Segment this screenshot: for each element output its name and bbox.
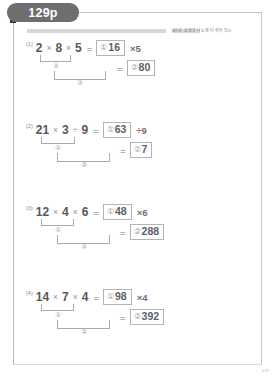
equals-sign-1: = (93, 292, 99, 303)
term-3: 6 (82, 205, 89, 219)
equals-sign-2: = (117, 63, 123, 74)
bracket-inner-label: ① (41, 311, 74, 319)
equation-line-secondary: = ② 7 (115, 143, 152, 157)
bracket-outer-label: ② (57, 243, 110, 251)
answer-value-step1: 98 (115, 291, 127, 302)
left-margin-rule (13, 20, 14, 365)
answer-box-step1[interactable]: ① 63 (103, 122, 132, 138)
bracket-inner-label: ① (41, 144, 75, 152)
term-3: 4 (82, 290, 89, 304)
bracket-inner (41, 219, 74, 226)
step-marker-2: ② (134, 311, 141, 322)
answer-box-step2[interactable]: ② 288 (130, 224, 165, 240)
operator-1: × (46, 43, 51, 53)
term-1: 21 (36, 123, 49, 137)
equals-sign-1: = (87, 43, 93, 54)
answer-box-step2[interactable]: ② 80 (127, 60, 156, 76)
header-band-left (27, 29, 166, 33)
step-marker-2: ② (131, 62, 138, 73)
bracket-outer-label: ② (57, 161, 110, 169)
problem-number: (4) (26, 290, 33, 296)
operator-1: × (53, 292, 58, 302)
remaining-operand-1: ×4 (137, 292, 148, 303)
answer-value-step2: 80 (139, 62, 151, 73)
equation-line-secondary: = ② 392 (115, 310, 164, 324)
operator-2: ÷ (73, 125, 78, 135)
operator-1: × (53, 125, 58, 135)
problem-item: (1) 2 × 8 × 5 = ① 16 ×5 = ② 80 ① ② (26, 40, 258, 112)
bracket-inner (41, 304, 74, 311)
term-2: 8 (55, 41, 62, 55)
remaining-operand-1: ÷9 (136, 125, 147, 136)
header-unit-label: 3단원 곱셈과 나눗셈이 섞여 있는 식 (172, 27, 234, 34)
tab-connector-line (74, 12, 262, 13)
bracket-outer-label: ② (57, 328, 110, 336)
answer-value-step2: 288 (142, 226, 160, 237)
equals-sign-2: = (120, 145, 126, 156)
term-3: 9 (81, 123, 88, 137)
term-3: 5 (75, 41, 82, 55)
term-2: 7 (62, 290, 69, 304)
equals-sign-2: = (120, 227, 126, 238)
answer-box-step1[interactable]: ① 16 (96, 40, 125, 56)
term-1: 12 (36, 205, 49, 219)
problem-item: (2) 21 × 3 ÷ 9 = ① 63 ÷9 = ② 7 ① ② (26, 122, 258, 194)
answer-box-step2[interactable]: ② 7 (130, 142, 153, 158)
term-1: 2 (36, 41, 43, 55)
worksheet-page: 129p 3단원 곱셈과 나눗셈이 섞여 있는 식 (1) 2 × 8 × 5 … (0, 0, 274, 379)
problem-number: (2) (26, 123, 33, 129)
answer-value-step1: 16 (108, 42, 120, 53)
answer-box-step2[interactable]: ② 392 (130, 309, 165, 325)
problem-number: (3) (26, 205, 33, 211)
operator-1: × (53, 207, 58, 217)
answer-value-step2: 7 (142, 144, 148, 155)
term-2: 4 (62, 205, 69, 219)
step-marker-2: ② (134, 226, 141, 237)
answer-value-step1: 63 (115, 124, 127, 135)
operator-2: × (66, 43, 71, 53)
page-number: 129 (262, 368, 269, 373)
problem-item: (4) 14 × 7 × 4 = ① 98 ×4 = ② 392 ① ② (26, 289, 258, 361)
step-marker-1: ① (107, 124, 114, 135)
answer-value-step1: 48 (115, 206, 127, 217)
step-marker-2: ② (134, 144, 141, 155)
equation-line-primary: (2) 21 × 3 ÷ 9 = ① 63 ÷9 (26, 122, 147, 138)
problem-number: (1) (26, 41, 33, 47)
problem-item: (3) 12 × 4 × 6 = ① 48 ×6 = ② 288 ① ② (26, 204, 258, 276)
step-marker-1: ① (107, 291, 114, 302)
answer-box-step1[interactable]: ① 48 (103, 204, 132, 220)
equation-line-primary: (1) 2 × 8 × 5 = ① 16 ×5 (26, 40, 141, 56)
bracket-inner-label: ① (40, 62, 71, 70)
bracket-outer-label: ② (54, 79, 106, 87)
equation-line-primary: (3) 12 × 4 × 6 = ① 48 ×6 (26, 204, 148, 220)
equals-sign-1: = (93, 125, 99, 136)
equals-sign-2: = (120, 312, 126, 323)
bracket-inner (41, 137, 75, 144)
operator-2: × (73, 292, 78, 302)
step-marker-1: ① (100, 42, 107, 53)
page-tab-label: 129p (28, 6, 57, 20)
remaining-operand-1: ×6 (137, 207, 148, 218)
bracket-inner-label: ① (41, 226, 74, 234)
term-2: 3 (62, 123, 69, 137)
answer-value-step2: 392 (142, 311, 160, 322)
equals-sign-1: = (93, 207, 99, 218)
step-marker-1: ① (107, 206, 114, 217)
equation-line-secondary: = ② 80 (112, 61, 155, 75)
term-1: 14 (36, 290, 49, 304)
answer-box-step1[interactable]: ① 98 (103, 289, 132, 305)
bracket-inner (40, 55, 71, 62)
equation-line-secondary: = ② 288 (115, 225, 164, 239)
equation-line-primary: (4) 14 × 7 × 4 = ① 98 ×4 (26, 289, 148, 305)
operator-2: × (73, 207, 78, 217)
page-tab[interactable]: 129p (7, 3, 79, 22)
remaining-operand-1: ×5 (130, 43, 141, 54)
